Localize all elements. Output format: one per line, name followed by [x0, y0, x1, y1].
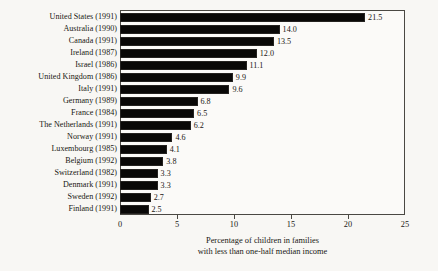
bar-value-label: 14.0	[283, 25, 297, 34]
bar-value-label: 6.5	[197, 109, 207, 118]
bar-value-label: 4.6	[175, 133, 185, 142]
category-label: United Kingdom (1986)	[0, 72, 117, 81]
bar-value-label: 13.5	[277, 37, 291, 46]
bar-value-label: 3.8	[166, 157, 176, 166]
category-label: Germany (1989)	[0, 96, 117, 105]
category-label: Israel (1986)	[0, 60, 117, 69]
category-label: Ireland (1987)	[0, 48, 117, 57]
category-label: Sweden (1992)	[0, 192, 117, 201]
category-label: Canada (1991)	[0, 36, 117, 45]
x-axis-tick	[348, 215, 349, 219]
category-label: United States (1991)	[0, 12, 117, 21]
x-axis-tick-label: 0	[118, 220, 122, 230]
bar-value-label: 21.5	[368, 13, 382, 22]
category-label: The Netherlands (1991)	[0, 120, 117, 129]
category-label: Finland (1991)	[0, 204, 117, 213]
x-axis-tick-label: 15	[287, 220, 295, 230]
bar-value-label: 11.1	[250, 61, 264, 70]
bar-value-label: 12.0	[260, 49, 274, 58]
bar-value-label: 2.5	[152, 205, 162, 214]
bar-value-label: 9.6	[232, 85, 242, 94]
category-label: Norway (1991)	[0, 132, 117, 141]
caption-line-1: Percentage of children in families	[120, 236, 405, 247]
category-label: Luxembourg (1985)	[0, 144, 117, 153]
x-axis-tick-label: 20	[344, 220, 352, 230]
category-label: Belgium (1992)	[0, 156, 117, 165]
caption-line-2: with less than one-half median income	[120, 247, 405, 258]
bar-chart: United States (1991)Australia (1990)Cana…	[0, 0, 438, 271]
category-label: Australia (1990)	[0, 24, 117, 33]
x-axis-tick	[291, 215, 292, 219]
x-axis-tick-label: 25	[401, 220, 409, 230]
bar-value-label: 4.1	[170, 145, 180, 154]
category-axis-labels: United States (1991)Australia (1990)Cana…	[0, 10, 117, 215]
category-label: Italy (1991)	[0, 84, 117, 93]
bar-value-label: 9.9	[236, 73, 246, 82]
bar-value-label: 6.2	[194, 121, 204, 130]
bar-value-label: 2.7	[154, 193, 164, 202]
x-axis-tick-label: 10	[230, 220, 238, 230]
bar-value-label: 3.3	[161, 169, 171, 178]
category-label: Switzerland (1982)	[0, 168, 117, 177]
x-axis-tick	[177, 215, 178, 219]
x-axis-caption: Percentage of children in families with …	[120, 236, 405, 257]
bar-value-labels: 21.514.013.512.011.19.99.66.86.56.24.64.…	[120, 10, 430, 215]
category-label: Denmark (1991)	[0, 180, 117, 189]
x-axis-tick-label: 5	[175, 220, 179, 230]
bar-value-label: 3.3	[161, 181, 171, 190]
x-axis-tick	[234, 215, 235, 219]
category-label: France (1984)	[0, 108, 117, 117]
bar-value-label: 6.8	[201, 97, 211, 106]
